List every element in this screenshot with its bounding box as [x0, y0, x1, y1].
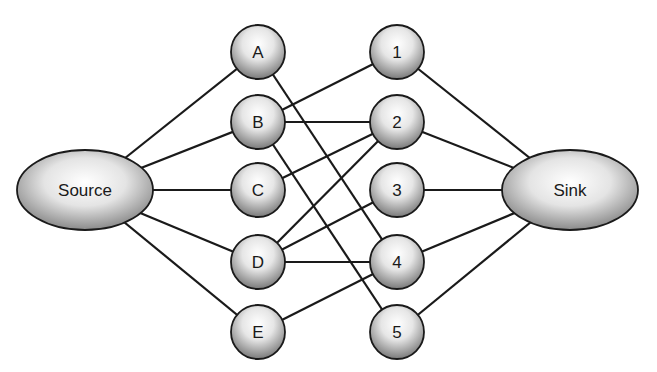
node-c: C — [231, 163, 285, 217]
node-label: 5 — [392, 323, 401, 342]
node-sink: Sink — [502, 150, 638, 230]
node-e: E — [231, 305, 285, 359]
flow-network-diagram: SourceSinkABCDE12345 — [0, 0, 657, 372]
node-label: A — [252, 43, 264, 62]
node-b: B — [231, 95, 285, 149]
node-label: B — [252, 113, 263, 132]
node-label: 4 — [392, 253, 401, 272]
node-label: Sink — [553, 181, 587, 200]
node-3: 3 — [370, 163, 424, 217]
node-a: A — [231, 25, 285, 79]
node-1: 1 — [370, 25, 424, 79]
node-4: 4 — [370, 235, 424, 289]
node-label: Source — [58, 181, 112, 200]
node-label: E — [252, 323, 263, 342]
node-label: 1 — [392, 43, 401, 62]
node-source: Source — [17, 150, 153, 230]
node-d: D — [231, 235, 285, 289]
edges-layer — [85, 52, 570, 332]
node-2: 2 — [370, 95, 424, 149]
node-label: D — [252, 253, 264, 272]
node-label: C — [252, 181, 264, 200]
node-label: 2 — [392, 113, 401, 132]
node-label: 3 — [392, 181, 401, 200]
node-5: 5 — [370, 305, 424, 359]
